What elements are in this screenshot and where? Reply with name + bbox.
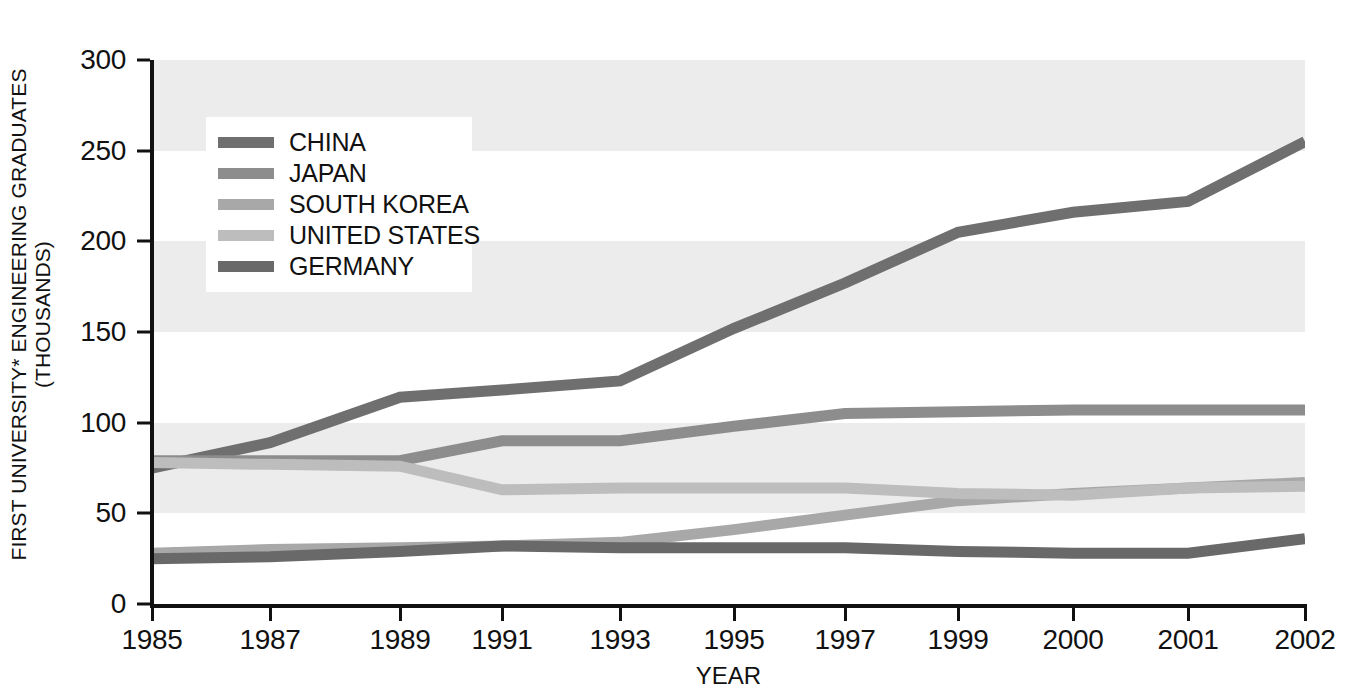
legend-label: GERMANY: [289, 252, 414, 281]
x-tick-label: 1995: [703, 624, 764, 656]
legend-label: JAPAN: [289, 159, 367, 188]
chart-legend: CHINAJAPANSOUTH KOREAUNITED STATESGERMAN…: [206, 117, 472, 292]
y-axis-line: [150, 60, 154, 606]
y-axis-title: FIRST UNIVERSITY* ENGINEERING GRADUATES …: [0, 0, 60, 630]
x-tick-mark: [1187, 607, 1190, 621]
x-tick-label: 1989: [369, 624, 430, 656]
x-tick-label: 1991: [471, 624, 532, 656]
x-tick-label: 1985: [121, 624, 182, 656]
x-tick-mark: [151, 607, 154, 621]
y-tick-label: 0: [54, 588, 126, 620]
y-tick-mark: [137, 331, 150, 334]
legend-swatch-icon: [218, 137, 274, 148]
x-tick-label: 1999: [927, 624, 988, 656]
legend-swatch-icon: [218, 199, 274, 210]
y-tick-mark: [137, 421, 150, 424]
y-tick-mark: [137, 512, 150, 515]
legend-label: CHINA: [289, 128, 366, 157]
y-tick-label: 150: [54, 316, 126, 348]
y-axis-title-line-1: FIRST UNIVERSITY* ENGINEERING GRADUATES: [6, 69, 30, 561]
y-tick-mark: [137, 603, 150, 606]
x-tick-label: 2000: [1042, 624, 1103, 656]
y-axis-title-line-2: (THOUSANDS): [30, 69, 54, 561]
y-tick-label: 300: [54, 44, 126, 76]
legend-label: UNITED STATES: [289, 221, 480, 250]
legend-item-china[interactable]: CHINA: [218, 127, 456, 158]
y-tick-mark: [137, 149, 150, 152]
legend-item-germany[interactable]: GERMANY: [218, 251, 456, 282]
legend-swatch-icon: [218, 261, 274, 272]
series-line-united-states: [152, 463, 1305, 496]
legend-item-south-korea[interactable]: SOUTH KOREA: [218, 189, 456, 220]
y-tick-label: 200: [54, 225, 126, 257]
y-tick-mark: [137, 59, 150, 62]
x-tick-mark: [619, 607, 622, 621]
x-tick-mark: [501, 607, 504, 621]
x-tick-mark: [957, 607, 960, 621]
x-axis-title: YEAR: [696, 662, 761, 690]
x-tick-mark: [844, 607, 847, 621]
legend-item-japan[interactable]: JAPAN: [218, 158, 456, 189]
legend-swatch-icon: [218, 168, 274, 179]
y-tick-label: 250: [54, 135, 126, 167]
x-tick-mark: [399, 607, 402, 621]
x-tick-label: 1997: [814, 624, 875, 656]
x-tick-mark: [269, 607, 272, 621]
series-line-japan: [152, 410, 1305, 461]
engineering-graduates-line-chart: FIRST UNIVERSITY* ENGINEERING GRADUATES …: [0, 0, 1347, 700]
x-tick-label: 1993: [589, 624, 650, 656]
y-tick-label: 100: [54, 407, 126, 439]
x-tick-mark: [733, 607, 736, 621]
legend-item-united-states[interactable]: UNITED STATES: [218, 220, 456, 251]
x-tick-label: 2002: [1274, 624, 1335, 656]
x-tick-mark: [1072, 607, 1075, 621]
x-tick-label: 1987: [239, 624, 300, 656]
legend-swatch-icon: [218, 230, 274, 241]
x-axis-line: [150, 604, 1307, 608]
x-tick-mark: [1304, 607, 1307, 621]
x-tick-label: 2001: [1157, 624, 1218, 656]
y-tick-label: 50: [54, 497, 126, 529]
legend-label: SOUTH KOREA: [289, 190, 469, 219]
y-tick-mark: [137, 240, 150, 243]
